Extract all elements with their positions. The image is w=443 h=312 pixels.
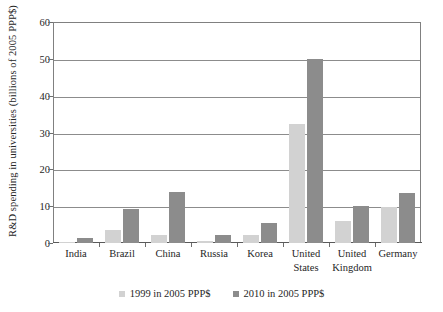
y-tick-label: 40 (10, 90, 50, 101)
bar-china-2010 (169, 192, 185, 243)
bar-chart: R&D spending in universities (billions o… (0, 0, 443, 312)
bar-germany-2010 (399, 193, 415, 243)
x-label-korea: Korea (237, 247, 283, 261)
y-tick-label: 0 (10, 238, 50, 249)
legend-label: 1999 in 2005 PPP$ (130, 288, 211, 299)
bar-india-2010 (77, 238, 93, 243)
bar-korea-1999 (243, 235, 259, 243)
x-label-line: India (53, 247, 99, 261)
bar-united-states-2010 (307, 59, 323, 243)
bar-russia-2010 (215, 235, 231, 243)
y-tick-label: 60 (10, 17, 50, 28)
x-label-line: States (283, 261, 329, 275)
x-label-line: Brazil (99, 247, 145, 261)
x-label-line: Korea (237, 247, 283, 261)
x-label-line: United (329, 247, 375, 261)
bar-brazil-2010 (123, 209, 139, 243)
x-label-united-states: UnitedStates (283, 247, 329, 274)
bar-united-states-1999 (289, 124, 305, 243)
y-tick-label: 50 (10, 53, 50, 64)
bar-united-kingdom-2010 (353, 206, 369, 243)
x-axis-labels: IndiaBrazilChinaRussiaKoreaUnitedStatesU… (53, 247, 421, 281)
x-label-line: Russia (191, 247, 237, 261)
bar-brazil-1999 (105, 230, 121, 243)
x-label-line: Kingdom (329, 261, 375, 275)
x-label-china: China (145, 247, 191, 261)
bar-russia-1999 (197, 241, 213, 243)
y-tick-label: 30 (10, 127, 50, 138)
legend-item-2010: 2010 in 2005 PPP$ (233, 288, 325, 299)
chart-legend: 1999 in 2005 PPP$2010 in 2005 PPP$ (0, 288, 443, 299)
y-tick-label: 20 (10, 164, 50, 175)
x-label-line: United (283, 247, 329, 261)
bar-korea-2010 (261, 223, 277, 243)
legend-swatch-icon (119, 291, 125, 297)
bar-germany-1999 (381, 207, 397, 243)
x-label-line: Germany (375, 247, 421, 261)
x-label-united-kingdom: UnitedKingdom (329, 247, 375, 274)
bar-china-1999 (151, 235, 167, 243)
bar-india-1999 (59, 242, 75, 243)
x-label-india: India (53, 247, 99, 261)
bar-united-kingdom-1999 (335, 221, 351, 243)
x-label-brazil: Brazil (99, 247, 145, 261)
legend-label: 2010 in 2005 PPP$ (244, 288, 325, 299)
legend-swatch-icon (233, 291, 239, 297)
x-label-russia: Russia (191, 247, 237, 261)
y-axis-ticks: 0102030405060 (0, 0, 50, 312)
legend-item-1999: 1999 in 2005 PPP$ (119, 288, 211, 299)
x-label-germany: Germany (375, 247, 421, 261)
y-tick-label: 10 (10, 201, 50, 212)
x-label-line: China (145, 247, 191, 261)
bars-layer (53, 22, 421, 243)
